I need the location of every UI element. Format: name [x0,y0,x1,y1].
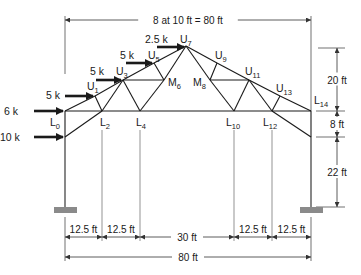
member-L4-M6 [140,80,164,111]
dimension-label: 30 ft [177,232,197,243]
node-label-m6: M6 [168,76,181,91]
member-U13-L14 [280,96,311,111]
member-U7-U9 [186,46,217,63]
member-L10-U11 [234,80,249,111]
member-U7-M8 [186,46,210,80]
node-label-u1: U1 [87,80,99,95]
node-label-l14: L14 [314,94,328,109]
dimension-label: 8 at 10 ft = 80 ft [153,15,223,26]
member-M6-U7 [164,46,186,80]
fixed-supports [54,207,323,213]
load-label: 2.5 k [145,33,169,45]
dimension-label: 12.5 ft [107,224,135,235]
member-M8-U9 [210,63,217,80]
member-L2-U3 [102,80,123,111]
dimension-label: 80 ft [178,252,198,263]
node-label-l2: L2 [100,116,110,131]
dimension-label: 12.5 ft [278,224,306,235]
load-label: 5 k [90,65,105,77]
node-label-l0: L0 [50,116,60,131]
member-M8-L10 [210,80,234,111]
load-label: 5 k [120,49,135,61]
dimension-label: 22 ft [327,167,347,178]
member-KL-L2 [65,111,102,137]
truss-svg: 6 k10 k5 k5 k5 k2.5 k L0L2L4L10L12L14U1U… [0,0,361,275]
node-label-u3: U3 [116,65,128,80]
load-label: 10 k [0,131,21,143]
member-U1-L2 [95,96,102,111]
dimension-label: 8 ft [330,119,344,130]
fixed-support-icon [54,207,77,213]
member-U3-L4 [123,80,140,111]
member-KR-L12 [272,111,311,137]
load-label: 5 k [46,89,61,101]
truss-frame-diagram: 6 k10 k5 k5 k5 k2.5 k L0L2L4L10L12L14U1U… [0,0,361,275]
dimension-label: 20 ft [327,75,347,86]
fixed-support-icon [300,207,323,213]
member-L0-U1 [65,96,95,111]
node-label-l12: L12 [263,116,277,131]
load-label: 6 k [4,105,19,117]
member-U1-U3 [95,80,123,96]
dimension-label: 12.5 ft [239,224,267,235]
node-label-m8: M8 [193,76,206,91]
node-label-u9: U9 [215,49,227,64]
member-L12-U13 [272,96,280,111]
node-label-l4: L4 [136,116,146,131]
member-U11-L12 [249,80,272,111]
member-U5-M6 [154,63,164,80]
dimension-label: 12.5 ft [70,224,98,235]
node-label-l10: L10 [226,116,240,131]
node-labels: L0L2L4L10L12L14U1U3U5U7U9U11U13M6M8 [50,33,328,131]
node-label-u11: U11 [245,65,260,80]
dimension-lines: 8 at 10 ft = 80 ft20 ft8 ft22 ft12.5 ft1… [65,15,350,263]
